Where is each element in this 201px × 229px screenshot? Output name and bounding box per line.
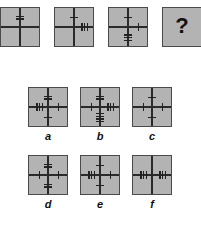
tick-mark <box>146 171 147 179</box>
horizontal-axis-line <box>29 174 67 176</box>
tick-mark <box>148 97 156 98</box>
option-label-d: d <box>28 198 68 210</box>
option-f[interactable] <box>132 155 172 195</box>
option-d[interactable] <box>28 155 68 195</box>
tick-mark <box>58 171 59 179</box>
tick-mark <box>96 121 104 122</box>
tick-mark <box>44 164 52 165</box>
tick-mark <box>96 116 104 117</box>
tick-mark <box>96 98 104 99</box>
horizontal-axis-line <box>109 26 147 28</box>
tick-mark <box>70 17 78 18</box>
tick-mark <box>124 17 132 18</box>
horizontal-axis-line <box>81 174 119 176</box>
horizontal-axis-line <box>29 106 67 108</box>
tick-mark <box>110 171 111 179</box>
tick-mark <box>36 103 37 111</box>
tick-mark <box>96 185 104 186</box>
sequence-figure-3 <box>108 7 148 47</box>
tick-mark <box>81 23 82 31</box>
question-mark: ? <box>163 13 201 39</box>
tick-mark <box>42 103 43 111</box>
option-e[interactable] <box>80 155 120 195</box>
sequence-figure-1 <box>0 7 40 47</box>
option-b[interactable] <box>80 87 120 127</box>
tick-mark <box>159 171 160 179</box>
option-label-c: c <box>132 130 172 142</box>
tick-mark <box>94 171 95 179</box>
option-label-f: f <box>132 198 172 210</box>
tick-mark <box>44 98 52 99</box>
sequence-figure-2 <box>54 7 94 47</box>
tick-mark <box>16 16 24 17</box>
tick-mark <box>140 171 141 179</box>
tick-mark <box>124 40 132 41</box>
tick-mark <box>87 23 88 31</box>
option-label-e: e <box>80 198 120 210</box>
horizontal-axis-line <box>1 26 39 28</box>
tick-mark <box>124 34 132 35</box>
tick-mark <box>44 117 52 118</box>
tick-mark <box>44 166 52 167</box>
tick-mark <box>88 171 89 179</box>
tick-mark <box>110 103 111 111</box>
tick-mark <box>148 117 156 118</box>
option-label-a: a <box>28 130 68 142</box>
tick-mark <box>91 171 92 179</box>
tick-mark <box>124 37 132 38</box>
tick-mark <box>162 171 163 179</box>
tick-mark <box>44 184 52 185</box>
option-c[interactable] <box>132 87 172 127</box>
tick-mark <box>39 171 40 179</box>
tick-mark <box>44 96 52 97</box>
tick-mark <box>96 113 104 114</box>
tick-mark <box>44 186 52 187</box>
tick-mark <box>162 103 163 111</box>
tick-mark <box>58 103 59 111</box>
tick-mark <box>39 103 40 111</box>
tick-mark <box>16 18 24 19</box>
horizontal-axis-line <box>133 106 171 108</box>
tick-mark <box>113 103 114 111</box>
tick-mark <box>143 171 144 179</box>
option-a[interactable] <box>28 87 68 127</box>
tick-mark <box>143 103 144 111</box>
tick-mark <box>96 96 104 97</box>
tick-mark <box>96 165 104 166</box>
tick-mark <box>96 118 104 119</box>
tick-mark <box>165 171 166 179</box>
tick-mark <box>138 23 139 31</box>
tick-mark <box>91 103 92 111</box>
missing-figure: ? <box>162 7 201 47</box>
tick-mark <box>107 103 108 111</box>
option-label-b: b <box>80 130 120 142</box>
tick-mark <box>84 23 85 31</box>
